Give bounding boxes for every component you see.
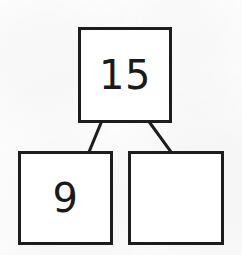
part-box-right[interactable] [128, 151, 224, 245]
part-box-left-value: 9 [53, 178, 79, 218]
part-box-left[interactable]: 9 [18, 151, 113, 245]
connector-whole-to-right-part [150, 123, 171, 152]
whole-box-value: 15 [99, 55, 151, 95]
connector-whole-to-left-part [89, 123, 101, 152]
number-bond-diagram: 15 9 [0, 0, 242, 255]
whole-box[interactable]: 15 [78, 27, 172, 123]
